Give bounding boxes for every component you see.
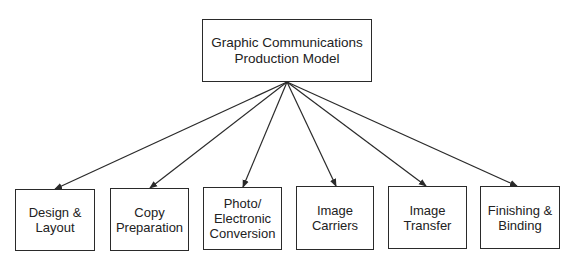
node-label: Image Transfer — [404, 203, 452, 233]
node-label: Photo/ Electronic Conversion — [210, 196, 276, 241]
node-label: Copy Preparation — [116, 205, 183, 235]
node-photo-electronic-conversion: Photo/ Electronic Conversion — [203, 187, 282, 250]
arrow-to-node-3 — [287, 82, 336, 186]
node-label: Finishing & Binding — [488, 203, 552, 233]
arrow-to-node-0 — [55, 82, 287, 189]
arrow-to-node-5 — [287, 82, 517, 186]
node-copy-preparation: Copy Preparation — [110, 188, 189, 251]
diagram-canvas: Graphic Communications Production Model … — [0, 0, 572, 265]
arrow-to-node-1 — [150, 82, 287, 188]
node-image-transfer: Image Transfer — [388, 186, 467, 249]
node-finishing-binding: Finishing & Binding — [480, 186, 560, 249]
root-node-label: Graphic Communications Production Model — [211, 35, 363, 67]
node-image-carriers: Image Carriers — [296, 186, 374, 250]
arrow-to-node-4 — [287, 82, 426, 186]
root-node-production-model: Graphic Communications Production Model — [202, 19, 372, 82]
arrow-to-node-2 — [243, 82, 287, 187]
node-design-layout: Design & Layout — [15, 189, 95, 251]
node-label: Design & Layout — [29, 205, 82, 235]
node-label: Image Carriers — [312, 203, 358, 233]
